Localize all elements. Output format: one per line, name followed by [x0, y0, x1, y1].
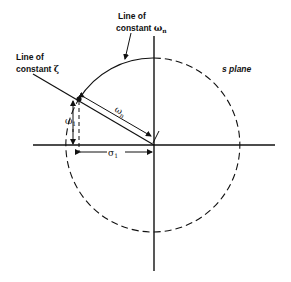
w1-label: ω1 [65, 116, 76, 127]
constant-zeta-line [33, 74, 154, 145]
s-plane-diagram: Line of constant ωn Line of constant ζ s… [0, 0, 291, 282]
wn-label: ωn [113, 104, 128, 119]
constant-wn-label-line1: Line of [118, 11, 146, 21]
pole-point [76, 96, 81, 101]
s-plane-label: s plane [222, 64, 252, 74]
constant-zeta-label-line1: Line of [16, 52, 44, 62]
wn-dimension-arrow [84, 97, 151, 136]
constant-wn-label-line2: constant ωn [116, 23, 167, 34]
constant-zeta-label-line2: constant ζ [16, 64, 59, 74]
constant-wn-pointer [125, 33, 131, 59]
constant-wn-arc-solid [79, 58, 154, 99]
